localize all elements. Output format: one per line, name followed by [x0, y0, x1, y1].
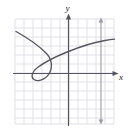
x-axis — [13, 71, 119, 76]
grid-lines — [15, 19, 114, 124]
x-axis-label: x — [118, 72, 123, 82]
graph-figure: x y — [0, 0, 129, 136]
vertical-test-line — [99, 18, 104, 125]
coordinate-plane: x y — [0, 0, 129, 136]
y-axis-label: y — [65, 3, 70, 13]
